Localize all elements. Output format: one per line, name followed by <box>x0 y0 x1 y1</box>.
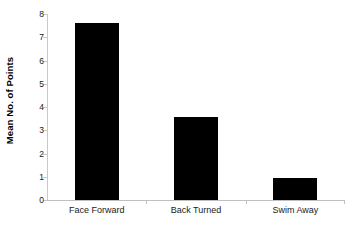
y-axis-tick-label: 7 <box>39 33 44 42</box>
bar <box>75 23 119 200</box>
plot-area: 012345678 Face ForwardBack TurnedSwim Aw… <box>47 14 345 200</box>
x-axis-category-label: Face Forward <box>47 206 146 215</box>
y-axis-title: Mean No. of Points <box>0 0 20 200</box>
x-axis-category-label: Swim Away <box>246 206 345 215</box>
y-axis-line <box>47 14 48 200</box>
y-axis-tick-label: 2 <box>39 149 44 158</box>
y-axis-tick-label: 6 <box>39 56 44 65</box>
x-axis-line <box>47 200 345 201</box>
y-axis-tick-label: 1 <box>39 173 44 182</box>
y-axis-tick-label: 4 <box>39 103 44 112</box>
bar <box>174 117 218 200</box>
x-axis-tick-mark <box>146 200 147 204</box>
y-axis-tick-label: 8 <box>39 10 44 19</box>
x-axis-tick-mark <box>344 200 345 204</box>
y-axis-tick-label: 0 <box>39 196 44 205</box>
bar <box>273 178 317 200</box>
y-axis-title-text: Mean No. of Points <box>5 56 16 143</box>
y-axis-tick-label: 3 <box>39 126 44 135</box>
x-axis-category-label: Back Turned <box>146 206 245 215</box>
y-axis-tick-label: 5 <box>39 80 44 89</box>
x-axis-tick-mark <box>246 200 247 204</box>
bar-chart-figure: Mean No. of Points 012345678 Face Forwar… <box>0 0 358 226</box>
